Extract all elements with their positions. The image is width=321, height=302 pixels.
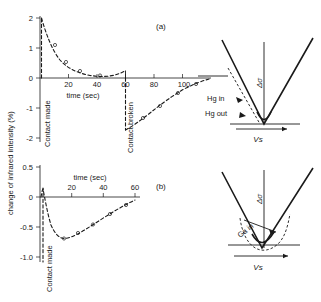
panel-a-x-ticks: 20 40 60 80 100 — [64, 74, 190, 89]
panel-a: (a) 2 1 0 -1 -2 20 40 60 80 — [26, 14, 211, 153]
panel-b-x-ticks: 20 40 60 — [68, 183, 140, 197]
panel-b-x-axis-label: time (sec) — [74, 173, 107, 182]
panel-b-y-ticks: 0.5 0 -0.5 -1.0 — [20, 163, 40, 262]
hg-delta-sigma-label: Δσ — [255, 77, 264, 89]
panel-b-xticklabel-2: 60 — [131, 183, 139, 192]
panel-a-annotation-contact-made: Contact made — [43, 100, 52, 147]
ga-delta-sigma-label: Δσ — [255, 193, 264, 205]
panel-a-y-ticks: 2 1 0 -1 -2 — [26, 14, 40, 143]
hg-band-diagram: Hg in Hg out Δσ Vs — [198, 38, 313, 144]
hg-out-label: Hg out — [205, 109, 228, 118]
y-axis-label: change of infrared intensity (%) — [6, 111, 15, 215]
ga-band-diagram: Ga in Δσ Vs — [222, 168, 313, 272]
panel-b-yticklabel-0: 0.5 — [23, 163, 33, 172]
figure-svg: change of infrared intensity (%) (a) 2 1… — [0, 0, 321, 302]
ga-vs-label: Vs — [253, 263, 262, 272]
panel-a-annotation-contact-broken: Contact broken — [126, 102, 135, 153]
panel-b-series-ga — [41, 189, 135, 239]
panel-a-label: (a) — [156, 22, 166, 31]
hg-in-arrow-head — [236, 97, 243, 103]
panel-a-series-contact-broken — [126, 79, 212, 131]
panel-b-xticklabel-0: 20 — [68, 183, 76, 192]
ga-v-curve — [222, 168, 313, 248]
y-axis-label-group: change of infrared intensity (%) — [6, 111, 15, 215]
panel-a-yticklabel-1: 1 — [29, 44, 33, 53]
hg-vs-arrow-head — [282, 127, 287, 131]
panel-b: (b) 0.5 0 -0.5 -1.0 20 40 60 time (sec) — [20, 163, 166, 292]
figure-container: change of infrared intensity (%) (a) 2 1… — [0, 0, 321, 302]
panel-a-xticklabel-1: 40 — [93, 80, 101, 89]
panel-a-xticklabel-3: 80 — [150, 80, 158, 89]
panel-a-yticklabel-0: 2 — [29, 14, 33, 23]
panel-a-xticklabel-4: 100 — [178, 80, 191, 89]
hg-in-label: Hg in — [207, 94, 225, 103]
panel-b-yticklabel-3: -1.0 — [20, 253, 33, 262]
panel-b-yticklabel-1: 0 — [29, 193, 33, 202]
panel-a-yticklabel-3: -1 — [26, 104, 33, 113]
panel-a-yticklabel-2: 0 — [29, 74, 33, 83]
ga-vs-arrow-head — [283, 254, 288, 258]
panel-a-xticklabel-0: 20 — [64, 80, 72, 89]
panel-b-yticklabel-2: -0.5 — [20, 223, 33, 232]
hg-out-arrow-head — [239, 112, 246, 118]
panel-b-xticklabel-1: 40 — [99, 183, 107, 192]
panel-a-x-axis-label: time (sec) — [67, 91, 100, 100]
hg-vs-label: Vs — [253, 135, 262, 144]
panel-a-yticklabel-4: -2 — [26, 134, 33, 143]
panel-b-annotation-contact-made: Contact made — [45, 245, 54, 292]
panel-b-label: (b) — [156, 182, 166, 191]
panel-a-series-contact-made — [42, 18, 126, 76]
